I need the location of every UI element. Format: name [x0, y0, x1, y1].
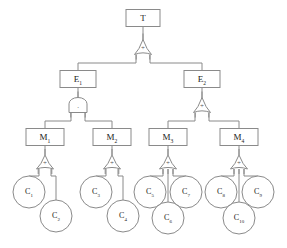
edge-G-T-to-E1 — [78, 55, 136, 71]
node-m3[interactable]: M3 — [149, 129, 187, 146]
gate-symbol-or: + — [166, 159, 170, 167]
node-e1[interactable]: E1 — [60, 71, 96, 88]
gate-and-G-E1[interactable]: . — [69, 92, 87, 118]
edge-G-T-to-E2 — [150, 55, 202, 71]
node-c1[interactable]: C1 — [13, 176, 45, 208]
node-c2[interactable]: C2 — [40, 200, 72, 232]
gate-or-G-T[interactable]: + — [135, 34, 152, 60]
gate-symbol-or: + — [110, 159, 114, 167]
gate-layer: +.+++++ — [37, 34, 248, 175]
node-m1[interactable]: M1 — [26, 129, 64, 146]
gate-symbol-or: + — [141, 44, 145, 52]
edge-G-M2-to-C4 — [118, 169, 123, 204]
node-c4[interactable]: C4 — [107, 200, 139, 232]
gate-symbol-and: . — [77, 102, 79, 110]
edge-G-E2-to-M3 — [168, 113, 195, 129]
gate-symbol-or: + — [237, 159, 241, 167]
node-c9[interactable]: C9 — [242, 176, 274, 208]
edge-G-M1-to-C2 — [51, 169, 56, 204]
edge-G-E1-to-M1 — [45, 113, 71, 129]
gate-symbol-or: + — [200, 102, 204, 110]
gate-or-G-M3[interactable]: + — [160, 149, 177, 174]
gate-or-G-E2[interactable]: + — [194, 92, 211, 118]
node-c6[interactable]: C6 — [152, 202, 184, 234]
fault-tree-canvas: +.+++++ TE1E2M1M2M3M4C1C2C3C4C5C7C6C8C9C… — [0, 0, 287, 248]
node-c3[interactable]: C3 — [80, 176, 112, 208]
fault-tree-diagram: +.+++++ TE1E2M1M2M3M4C1C2C3C4C5C7C6C8C9C… — [0, 0, 287, 248]
gate-or-G-M4[interactable]: + — [231, 149, 248, 174]
node-c10[interactable]: C10 — [223, 202, 255, 234]
gate-symbol-or: + — [43, 159, 47, 167]
edge-G-E2-to-M4 — [209, 113, 239, 129]
node-t[interactable]: T — [126, 10, 160, 27]
edge-G-E1-to-M2 — [85, 113, 112, 129]
node-m4[interactable]: M4 — [220, 129, 258, 146]
node-e2[interactable]: E2 — [184, 71, 220, 88]
node-label-t: T — [140, 13, 146, 23]
node-m2[interactable]: M2 — [93, 129, 131, 146]
